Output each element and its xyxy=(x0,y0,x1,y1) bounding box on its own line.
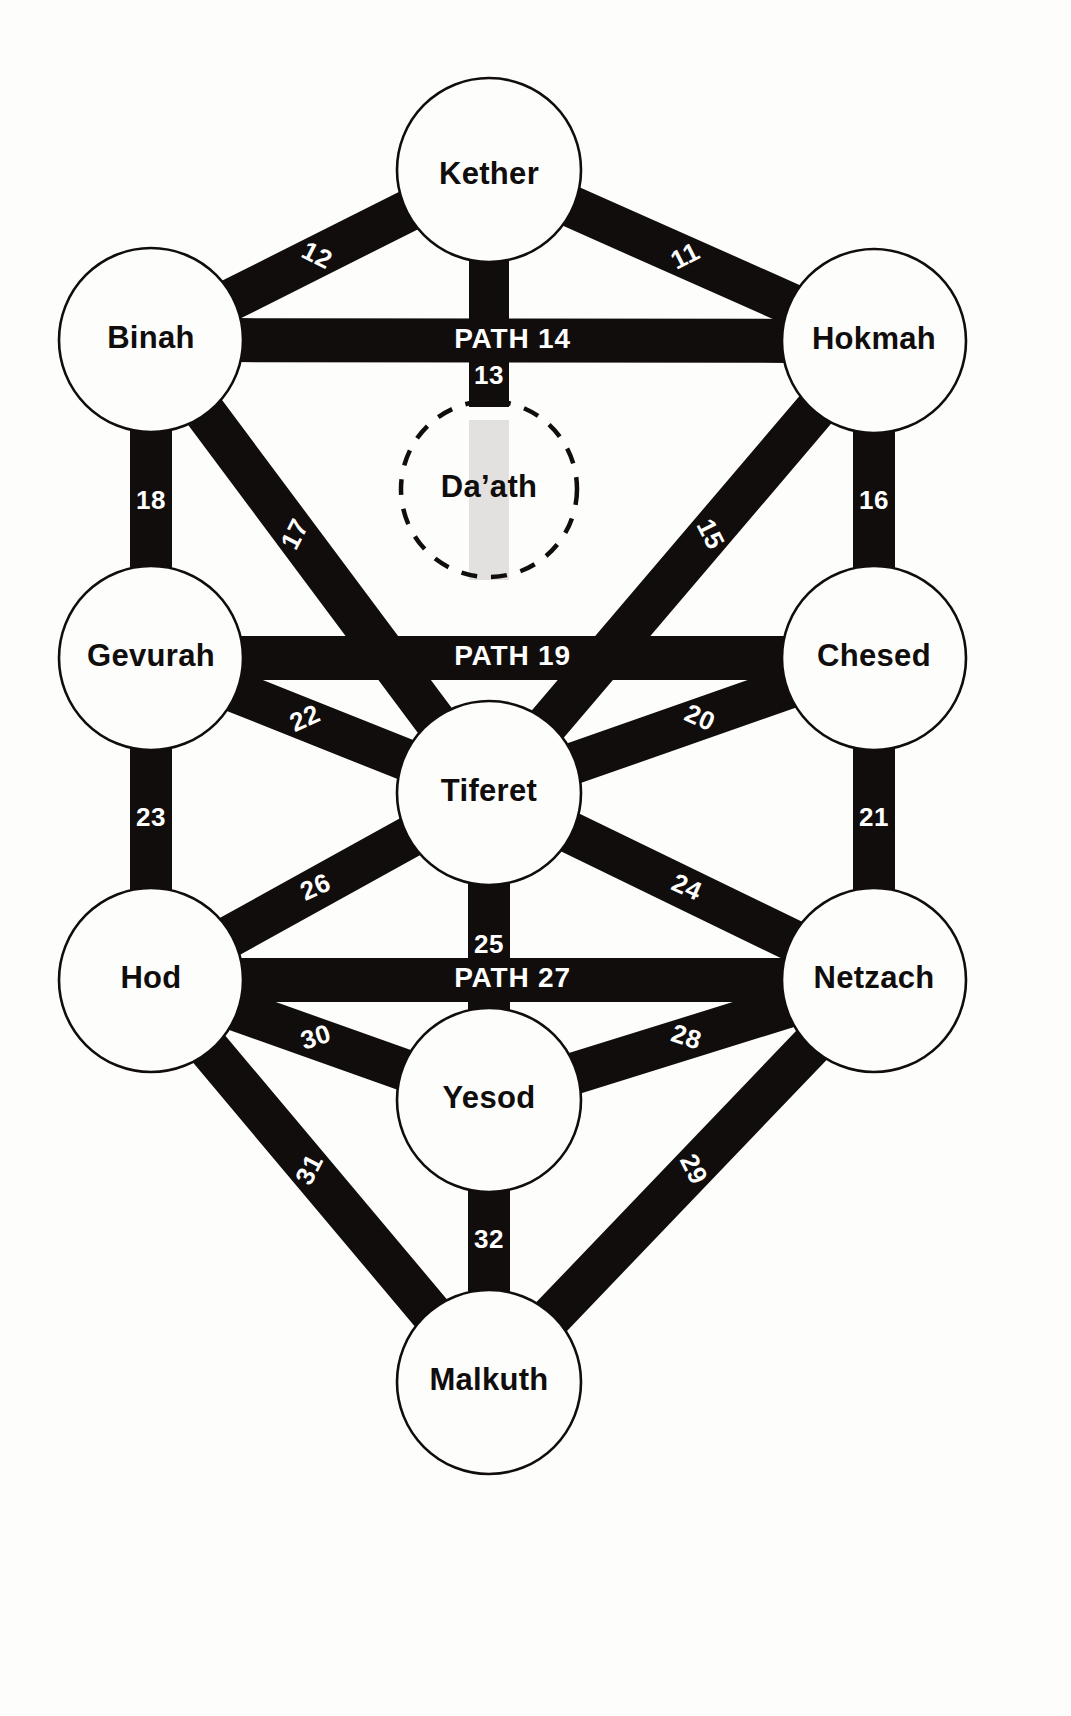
sephira-label-daath: Da’ath xyxy=(441,469,538,504)
sephira-label-kether: Kether xyxy=(439,156,539,191)
path-label-23: 23 xyxy=(136,802,166,832)
sephira-label-netzach: Netzach xyxy=(814,960,935,995)
sephira-label-gevurah: Gevurah xyxy=(87,638,215,673)
path-20 xyxy=(570,686,793,764)
page-background: 111213PATH 1415161718PATH 19202122232425… xyxy=(0,0,1071,1716)
path-label-19: PATH 19 xyxy=(454,640,571,671)
path-label-13: 13 xyxy=(474,360,504,390)
sephira-label-tiferet: Tiferet xyxy=(441,773,537,808)
path-label-18: 18 xyxy=(136,485,166,515)
tree-of-life-diagram: 111213PATH 1415161718PATH 19202122232425… xyxy=(0,0,1071,1716)
path-label-27: PATH 27 xyxy=(454,962,571,993)
sephira-label-binah: Binah xyxy=(107,320,195,355)
path-label-32: 32 xyxy=(474,1224,504,1254)
sephira-label-hokmah: Hokmah xyxy=(812,321,936,356)
sephira-label-chesed: Chesed xyxy=(817,638,931,673)
path-label-14: PATH 14 xyxy=(454,323,571,354)
path-label-21: 21 xyxy=(859,802,889,832)
sephira-label-yesod: Yesod xyxy=(443,1080,536,1115)
path-label-16: 16 xyxy=(859,485,889,515)
sephira-label-hod: Hod xyxy=(120,960,181,995)
sephira-label-malkuth: Malkuth xyxy=(429,1362,548,1397)
path-label-25: 25 xyxy=(474,929,504,959)
